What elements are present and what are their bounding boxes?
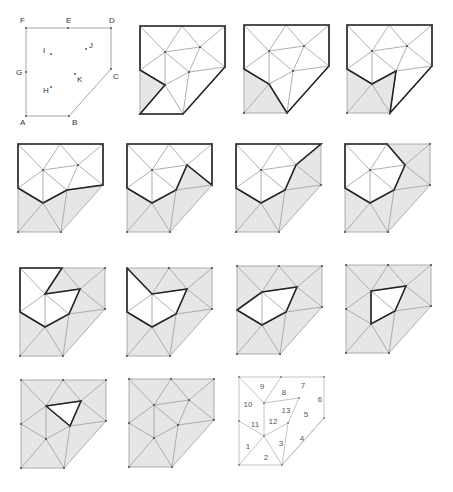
- vertex-G-dot: [19, 311, 21, 313]
- vertex-H-dot: [153, 437, 155, 439]
- vertex-C-dot: [110, 68, 112, 70]
- vertex-I-dot: [263, 402, 265, 404]
- edge-JD: [304, 25, 329, 46]
- vertex-J-dot: [199, 46, 201, 48]
- edge-JC: [78, 165, 103, 185]
- vertex-J-dot: [80, 400, 82, 402]
- vertex-H-dot: [44, 326, 46, 328]
- edge-KC: [396, 66, 432, 71]
- edge-JC: [200, 47, 225, 67]
- vertex-H-dot: [164, 84, 166, 86]
- edge-JD: [78, 144, 103, 165]
- vertex-D-dot: [323, 376, 325, 378]
- edge-EJ: [169, 144, 187, 165]
- vertex-J-dot: [296, 286, 298, 288]
- edge-IJ: [370, 165, 405, 170]
- vertex-G-dot: [235, 187, 237, 189]
- triangulation-figure: FEDCBAGIJKH12345678910111213: [0, 0, 453, 492]
- vertex-A-dot: [344, 231, 346, 233]
- edge-IJ: [43, 165, 78, 170]
- vertex-E-dot: [280, 376, 282, 378]
- vertex-B-dot: [62, 355, 64, 357]
- edge-JK: [293, 46, 304, 71]
- vertex-A-dot: [238, 464, 240, 466]
- edge-IJ: [165, 47, 200, 52]
- edge-JD: [407, 25, 432, 46]
- vertex-J-dot: [303, 45, 305, 47]
- vertex-A-dot: [235, 231, 237, 233]
- vertex-K-dot: [175, 189, 177, 191]
- vertex-K-dot: [285, 311, 287, 313]
- figure-canvas: FEDCBAGIJKH12345678910111213: [0, 0, 453, 492]
- vertex-F-dot: [126, 143, 128, 145]
- vertex-F-dot: [19, 267, 21, 269]
- edge-FI: [20, 268, 45, 294]
- panel-13: [20, 379, 107, 469]
- vertex-I-dot: [45, 405, 47, 407]
- edge-IJ: [372, 46, 407, 51]
- vertex-J-dot: [404, 164, 406, 166]
- triangle-number-8: 8: [282, 388, 287, 397]
- vertex-C-dot: [224, 66, 226, 68]
- vertex-I-dot: [268, 50, 270, 52]
- vertex-I-dot: [164, 51, 166, 53]
- vertex-B-dot: [388, 352, 390, 354]
- vertex-J-dot: [79, 288, 81, 290]
- vertex-E-dot: [62, 379, 64, 381]
- edge-FI: [244, 25, 269, 51]
- edge-KC: [293, 66, 329, 71]
- polygon-outline: [26, 28, 111, 116]
- vertex-C-dot: [431, 65, 433, 67]
- edge-JK: [67, 165, 78, 190]
- vertex-E-dot: [61, 267, 63, 269]
- edge-EJ: [60, 144, 78, 165]
- vertex-E-dot: [67, 27, 69, 29]
- vertex-A-dot: [126, 231, 128, 233]
- triangle-number-7: 7: [301, 381, 306, 390]
- vertex-C-dot: [211, 184, 213, 186]
- edge-IK: [370, 170, 394, 190]
- vertex-E-dot: [168, 143, 170, 145]
- vertex-C-dot: [323, 417, 325, 419]
- vertex-B-dot: [281, 464, 283, 466]
- vertex-A-dot: [346, 112, 348, 114]
- vertex-K-dot: [292, 70, 294, 72]
- vertex-F-dot: [243, 24, 245, 26]
- vertex-G-dot: [243, 68, 245, 70]
- vertex-H-dot: [263, 435, 265, 437]
- vertex-I-dot: [260, 169, 262, 171]
- edge-FI: [347, 25, 372, 51]
- vertex-F-dot: [345, 264, 347, 266]
- vertex-H-dot: [42, 202, 44, 204]
- vertex-D-dot: [430, 264, 432, 266]
- vertex-label-D: D: [109, 16, 115, 25]
- edge-IG: [345, 170, 370, 188]
- vertex-D-dot: [328, 24, 330, 26]
- vertex-G-dot: [345, 308, 347, 310]
- vertex-H-dot: [369, 202, 371, 204]
- vertex-label-K: K: [77, 75, 83, 84]
- vertex-K-dot: [175, 313, 177, 315]
- vertex-G-dot: [346, 68, 348, 70]
- edge-IE: [165, 26, 182, 52]
- vertex-J-dot: [188, 399, 190, 401]
- edge-IE: [370, 144, 387, 170]
- panel-9: [19, 267, 106, 357]
- edge-IJ: [264, 398, 299, 403]
- edge-JK: [189, 47, 200, 72]
- panel-7: [235, 143, 322, 233]
- vertex-H-dot: [260, 202, 262, 204]
- vertex-G-dot: [17, 187, 19, 189]
- vertex-D-dot: [320, 143, 322, 145]
- edge-EJ: [389, 25, 407, 46]
- edge-IJ: [269, 46, 304, 51]
- panel-1: FEDCBAGIJKH: [16, 16, 119, 127]
- vertex-E-dot: [170, 378, 172, 380]
- vertex-E-dot: [387, 264, 389, 266]
- vertex-C-dot: [211, 308, 213, 310]
- edge-IG: [347, 51, 372, 69]
- vertex-J-dot: [298, 397, 300, 399]
- edge-IG: [236, 170, 261, 188]
- edge-IE: [43, 144, 60, 170]
- vertex-K-dot: [393, 189, 395, 191]
